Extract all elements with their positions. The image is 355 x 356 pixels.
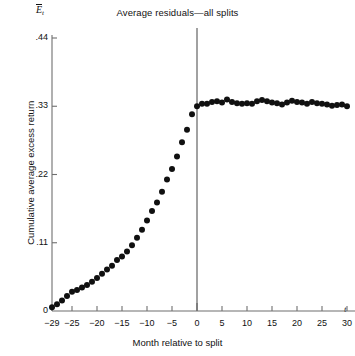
data-point — [259, 97, 265, 103]
data-point — [274, 100, 280, 106]
data-point — [289, 98, 295, 104]
data-point — [309, 99, 315, 105]
data-point — [119, 253, 125, 259]
data-point — [219, 100, 225, 106]
data-point — [114, 257, 120, 263]
data-point — [299, 100, 305, 106]
data-point — [94, 275, 100, 281]
data-point — [169, 166, 175, 172]
data-point — [154, 199, 160, 205]
data-point — [159, 189, 165, 195]
data-point — [144, 217, 150, 223]
chart-figure: Average residuals—all splits Et t Month … — [0, 0, 355, 356]
data-point — [214, 98, 220, 104]
y-tick-label: .33 — [22, 101, 48, 110]
data-point — [324, 101, 330, 107]
data-point — [139, 227, 145, 233]
y-tick-label: 0 — [22, 306, 48, 315]
data-point — [49, 304, 55, 310]
data-point — [109, 263, 115, 269]
data-point — [174, 154, 180, 160]
data-point — [59, 297, 65, 303]
plot-area — [0, 0, 355, 356]
data-point — [129, 242, 135, 248]
data-point — [149, 208, 155, 214]
data-point — [89, 279, 95, 285]
data-point — [179, 139, 185, 145]
data-point — [104, 266, 110, 272]
data-point — [264, 98, 270, 104]
data-point — [124, 248, 130, 254]
data-points — [49, 96, 350, 310]
data-point — [254, 98, 260, 104]
data-point — [84, 282, 90, 288]
data-point — [184, 127, 190, 133]
x-tick-label: 30 — [332, 319, 355, 328]
data-point — [134, 235, 140, 241]
y-tick-label: .44 — [22, 33, 48, 42]
data-point — [54, 301, 60, 307]
data-point — [189, 111, 195, 117]
data-point — [164, 176, 170, 182]
data-point — [64, 293, 70, 299]
data-point — [99, 271, 105, 277]
y-tick-label: .22 — [22, 170, 48, 179]
axes — [52, 35, 355, 311]
y-tick-label: .11 — [22, 238, 48, 247]
data-point — [344, 103, 350, 109]
data-point — [229, 99, 235, 105]
